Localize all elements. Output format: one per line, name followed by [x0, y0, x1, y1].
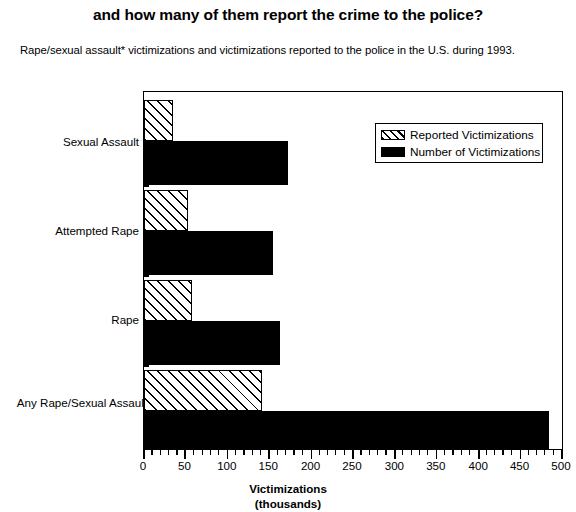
y-axis-group-tick-3 [144, 365, 149, 367]
y-axis-label-sexual-assault: Sexual Assault [63, 135, 139, 148]
x-tick-label-400: 400 [458, 459, 498, 472]
x-minor-tick-110 [235, 450, 236, 455]
x-tick-50 [184, 450, 186, 459]
x-minor-tick-380 [461, 450, 462, 455]
x-tick-label-450: 450 [500, 459, 540, 472]
y-axis-group-tick-2 [144, 275, 149, 277]
x-minor-tick-320 [411, 450, 412, 455]
x-tick-400 [478, 450, 480, 459]
bar-number-rape [144, 321, 280, 365]
x-tick-label-150: 150 [248, 459, 288, 472]
x-minor-tick-410 [486, 450, 487, 455]
bar-number-sexual-assault [144, 141, 288, 185]
x-minor-tick-90 [218, 450, 219, 455]
x-minor-tick-60 [193, 450, 194, 455]
x-tick-label-500: 500 [541, 459, 576, 472]
x-minor-tick-20 [160, 450, 161, 455]
bar-reported-attempted-rape [144, 190, 188, 231]
x-minor-tick-240 [344, 450, 345, 455]
x-minor-tick-140 [260, 450, 261, 455]
x-tick-500 [561, 450, 563, 459]
x-tick-label-100: 100 [207, 459, 247, 472]
legend-item-number: Number of Victimizations [381, 144, 537, 160]
legend-item-reported: Reported Victimizations [381, 127, 537, 143]
x-minor-tick-480 [544, 450, 545, 455]
chart-page: and how many of them report the crime to… [0, 0, 576, 512]
x-axis-title-line2: (thousands) [0, 497, 576, 512]
x-tick-label-250: 250 [332, 459, 372, 472]
x-tick-350 [436, 450, 438, 459]
x-minor-tick-170 [285, 450, 286, 455]
x-minor-tick-180 [293, 450, 294, 455]
x-minor-tick-420 [494, 450, 495, 455]
x-minor-tick-120 [243, 450, 244, 455]
bar-reported-sexual-assault [144, 100, 173, 141]
x-tick-label-350: 350 [416, 459, 456, 472]
x-minor-tick-390 [469, 450, 470, 455]
x-minor-tick-280 [377, 450, 378, 455]
y-axis-label-any-rape-sexual-assault: Any Rape/Sexual Assault [17, 396, 147, 409]
x-minor-tick-460 [528, 450, 529, 455]
x-minor-tick-40 [176, 450, 177, 455]
x-tick-150 [268, 450, 270, 459]
x-tick-250 [352, 450, 354, 459]
x-minor-tick-370 [452, 450, 453, 455]
x-minor-tick-270 [369, 450, 370, 455]
y-axis-label-attempted-rape: Attempted Rape [55, 224, 139, 237]
x-minor-tick-470 [536, 450, 537, 455]
x-minor-tick-160 [277, 450, 278, 455]
x-minor-tick-330 [419, 450, 420, 455]
x-tick-200 [311, 450, 313, 459]
x-minor-tick-340 [427, 450, 428, 455]
x-minor-tick-430 [502, 450, 503, 455]
x-minor-tick-10 [151, 450, 152, 455]
x-minor-tick-210 [319, 450, 320, 455]
x-minor-tick-130 [252, 450, 253, 455]
x-tick-0 [143, 450, 145, 459]
x-tick-450 [520, 450, 522, 459]
y-axis-label-rape: Rape [111, 313, 139, 326]
x-minor-tick-440 [511, 450, 512, 455]
x-tick-label-50: 50 [164, 459, 204, 472]
x-minor-tick-310 [402, 450, 403, 455]
legend-label-number: Number of Victimizations [410, 146, 540, 159]
x-tick-100 [227, 450, 229, 459]
x-minor-tick-490 [553, 450, 554, 455]
plot-area: Reported Victimizations Number of Victim… [143, 91, 563, 450]
x-minor-tick-30 [168, 450, 169, 455]
chart-legend: Reported Victimizations Number of Victim… [375, 123, 543, 163]
x-minor-tick-260 [360, 450, 361, 455]
x-minor-tick-290 [385, 450, 386, 455]
x-tick-label-300: 300 [374, 459, 414, 472]
legend-swatch-hatched-icon [381, 130, 405, 140]
x-tick-label-200: 200 [291, 459, 331, 472]
x-minor-tick-70 [202, 450, 203, 455]
x-tick-300 [394, 450, 396, 459]
x-minor-tick-360 [444, 450, 445, 455]
x-minor-tick-220 [327, 450, 328, 455]
x-axis-title-line1: Victimizations [0, 482, 576, 497]
bar-number-any-rape-sexual-assault [144, 411, 549, 449]
x-axis-title: Victimizations (thousands) [0, 482, 576, 511]
bar-number-attempted-rape [144, 231, 273, 275]
x-minor-tick-190 [302, 450, 303, 455]
x-minor-tick-230 [335, 450, 336, 455]
legend-label-reported: Reported Victimizations [410, 129, 534, 142]
bar-reported-rape [144, 280, 192, 321]
plot-inner: Reported Victimizations Number of Victim… [144, 92, 562, 449]
y-axis-group-tick-1 [144, 185, 149, 187]
legend-swatch-solid-icon [381, 147, 405, 157]
x-minor-tick-80 [210, 450, 211, 455]
x-tick-label-0: 0 [123, 459, 163, 472]
bar-reported-any-rape-sexual-assault [144, 370, 262, 411]
